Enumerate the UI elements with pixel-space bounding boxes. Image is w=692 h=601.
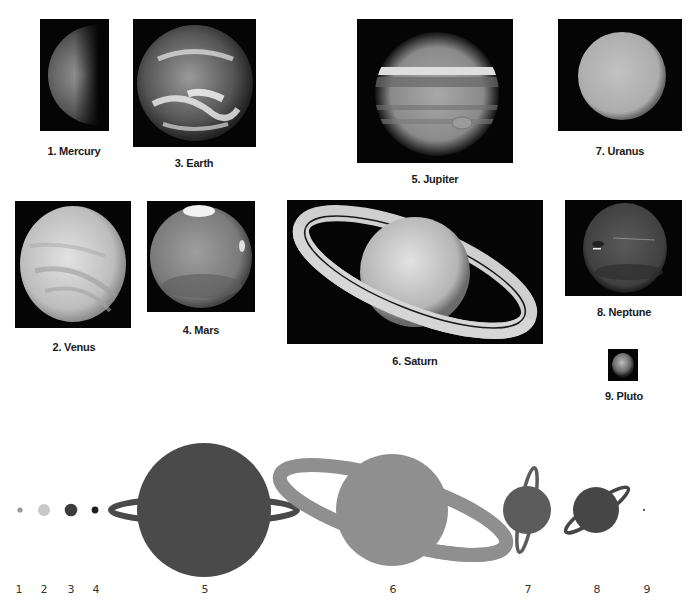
earth-photo — [133, 19, 256, 147]
mars-scale-dot — [92, 507, 99, 514]
uranus-photo — [558, 19, 682, 131]
uranus-caption: 7. Uranus — [596, 145, 644, 157]
scale-label-8: 8 — [594, 583, 601, 596]
planet-size-comparison — [0, 430, 692, 601]
saturn-photo — [287, 200, 543, 344]
scale-label-1: 1 — [16, 583, 23, 596]
scale-label-2: 2 — [41, 583, 48, 596]
neptune-scale-shape — [561, 482, 632, 539]
relative-size-diagram: 123456789 — [0, 430, 692, 601]
venus-scale-dot — [38, 504, 50, 516]
jupiter-scale-shape — [111, 443, 297, 577]
earth-scale-dot — [65, 504, 78, 517]
scale-label-4: 4 — [93, 583, 100, 596]
scale-label-7: 7 — [525, 583, 532, 596]
scale-label-3: 3 — [68, 583, 75, 596]
jupiter-photo — [357, 19, 513, 163]
saturn-caption: 6. Saturn — [392, 355, 437, 367]
mercury-photo — [40, 19, 109, 131]
neptune-caption: 8. Neptune — [597, 306, 651, 318]
mars-caption: 4. Mars — [183, 324, 220, 336]
mercury-scale-dot — [17, 507, 22, 512]
pluto-photo — [608, 349, 638, 381]
venus-caption: 2. Venus — [52, 341, 95, 353]
mercury-caption: 1. Mercury — [47, 145, 100, 157]
neptune-photo — [565, 200, 682, 296]
jupiter-caption: 5. Jupiter — [412, 173, 459, 185]
venus-photo — [15, 201, 131, 328]
earth-caption: 3. Earth — [175, 157, 214, 169]
scale-label-9: 9 — [644, 583, 651, 596]
scale-label-6: 6 — [390, 583, 397, 596]
mars-photo — [147, 201, 255, 312]
scale-label-5: 5 — [202, 583, 209, 596]
pluto-scale-dot — [643, 509, 645, 511]
pluto-caption: 9. Pluto — [605, 390, 643, 402]
